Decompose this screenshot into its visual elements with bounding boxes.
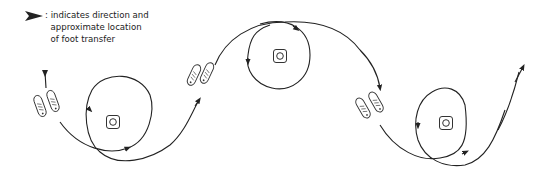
entry-arrow-icon bbox=[42, 70, 48, 77]
loop3-exit-arrow bbox=[515, 67, 523, 82]
center-marker-3-icon bbox=[440, 117, 453, 130]
loop3-bottom-arrow bbox=[462, 152, 466, 154]
foot-pair-3 bbox=[354, 90, 385, 119]
loop2-entry bbox=[215, 22, 360, 65]
loop1-path bbox=[86, 76, 198, 161]
loop1-exit-arrow bbox=[195, 100, 199, 106]
foot-pair-1 bbox=[32, 89, 60, 117]
skate-foot-icon bbox=[45, 89, 60, 112]
skating-pattern-diagram bbox=[0, 0, 551, 177]
center-marker-2-icon bbox=[274, 50, 287, 63]
skate-foot-icon bbox=[199, 61, 216, 84]
loop2-exit bbox=[360, 50, 380, 88]
skate-foot-icon bbox=[186, 63, 203, 86]
skate-foot-icon bbox=[354, 96, 372, 119]
skate-foot-icon bbox=[367, 90, 385, 113]
loop1-arrow bbox=[88, 108, 90, 110]
center-marker-1-icon bbox=[107, 116, 120, 129]
foot-pair-2 bbox=[186, 61, 216, 86]
skate-foot-icon bbox=[32, 94, 47, 117]
